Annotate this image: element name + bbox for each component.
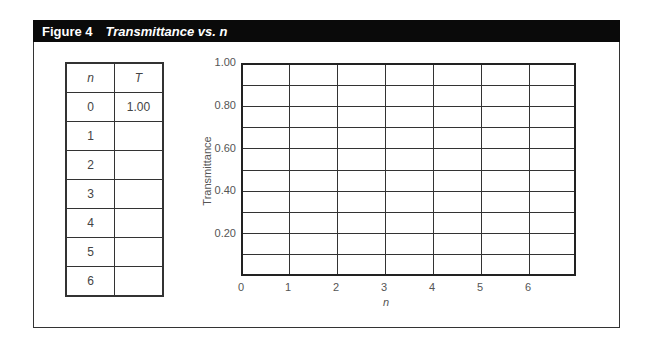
data-table: n T 0 1.00 1 2 3 4 5 6 (65, 62, 164, 297)
grid-hline (243, 85, 574, 86)
x-axis-label: n (383, 296, 389, 308)
grid-hline (243, 127, 574, 128)
grid-hline (243, 191, 574, 192)
table-row: 5 (66, 238, 163, 267)
x-tick-label: 4 (422, 281, 442, 293)
x-tick-label: 1 (278, 281, 298, 293)
x-tick-label: 0 (231, 281, 251, 293)
table-row: 3 (66, 180, 163, 209)
y-tick-label: 0.60 (215, 142, 236, 154)
figure-header: Figure 4 Transmittance vs. n (33, 20, 620, 42)
y-tick-label: 0.80 (215, 99, 236, 111)
cell-n: 6 (66, 267, 115, 297)
table-row: 1 (66, 122, 163, 151)
grid-hline (243, 233, 574, 234)
cell-n: 5 (66, 238, 115, 267)
cell-t[interactable] (115, 209, 164, 238)
x-tick-label: 6 (518, 281, 538, 293)
table-row: 2 (66, 151, 163, 180)
cell-n: 2 (66, 151, 115, 180)
cell-n: 3 (66, 180, 115, 209)
cell-n: 4 (66, 209, 115, 238)
x-tick-label: 2 (326, 281, 346, 293)
table-row: 0 1.00 (66, 93, 163, 122)
x-tick-label: 3 (374, 281, 394, 293)
y-tick-label: 0.40 (215, 184, 236, 196)
y-axis-label: Transmittance (201, 136, 213, 205)
y-tick-label: 1.00 (215, 56, 236, 68)
cell-n: 0 (66, 93, 115, 122)
grid-hline (243, 170, 574, 171)
table-row: 4 (66, 209, 163, 238)
x-tick-label: 5 (470, 281, 490, 293)
figure-title: Transmittance vs. n (106, 24, 228, 39)
y-tick-label: 0.20 (215, 227, 236, 239)
column-header-n: n (66, 63, 115, 93)
grid-hline (243, 106, 574, 107)
cell-n: 1 (66, 122, 115, 151)
table-header-row: n T (66, 63, 163, 93)
column-header-t: T (115, 63, 164, 93)
cell-t[interactable] (115, 122, 164, 151)
cell-t[interactable] (115, 180, 164, 209)
grid-hline (243, 254, 574, 255)
grid-hline (243, 148, 574, 149)
cell-t[interactable] (115, 267, 164, 297)
cell-t[interactable] (115, 151, 164, 180)
plot-area[interactable] (241, 63, 576, 276)
cell-t[interactable]: 1.00 (115, 93, 164, 122)
grid-hline (243, 212, 574, 213)
table-row: 6 (66, 267, 163, 297)
figure-number: Figure 4 (42, 24, 93, 39)
cell-t[interactable] (115, 238, 164, 267)
